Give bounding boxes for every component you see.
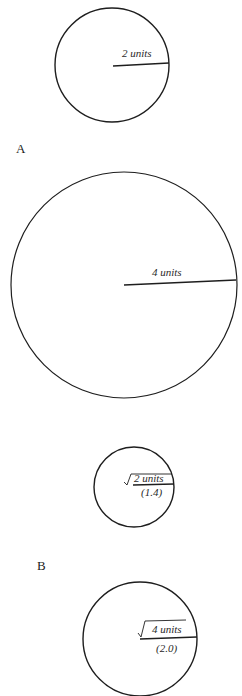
panel-label-b: B — [37, 558, 46, 573]
circle-a1: 2 units — [55, 8, 169, 122]
radius-label: 4 units — [152, 266, 182, 278]
circle-area-diagram: 2 units A 4 units 2 units (1.4) B 4 unit… — [0, 0, 242, 696]
radius-line — [133, 484, 174, 485]
radius-label: 2 units — [134, 472, 164, 484]
circle-a2: 4 units — [11, 172, 237, 398]
panel-label-a: A — [16, 141, 26, 156]
approx-value: (1.4) — [141, 486, 162, 499]
radius-line — [124, 280, 236, 285]
radius-label: 4 units — [152, 623, 182, 635]
radius-line — [140, 637, 197, 639]
circle-b1: 2 units (1.4) — [94, 447, 174, 527]
radius-line — [113, 63, 169, 66]
approx-value: (2.0) — [156, 642, 177, 655]
radius-label: 2 units — [122, 47, 152, 59]
circle-b2: 4 units (2.0) — [83, 582, 197, 696]
